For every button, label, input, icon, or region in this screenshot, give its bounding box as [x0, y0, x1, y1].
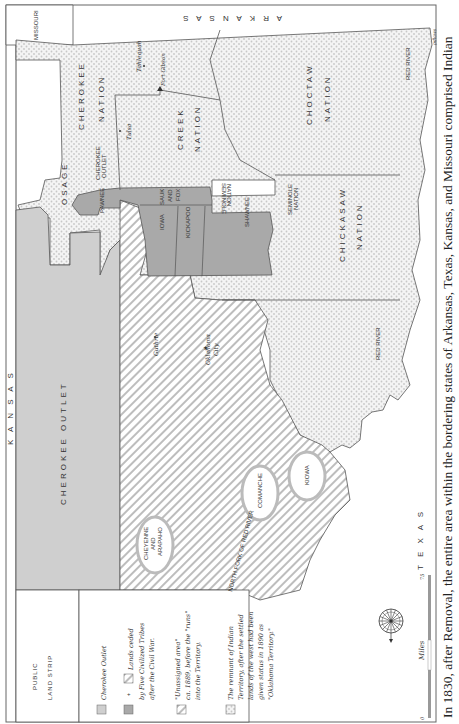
svg-text:given status in 1890 as: given status in 1890 as	[257, 623, 265, 700]
svg-text:CHEYENNE: CHEYENNE	[143, 527, 149, 560]
svg-text:PAWNEE: PAWNEE	[99, 188, 105, 213]
svg-text:Lands ceded: Lands ceded	[127, 628, 135, 671]
svg-text:CHOCTAW: CHOCTAW	[305, 64, 314, 125]
indian-territory-map: K A N S A S MISSOURI A R K A N S A S PUB…	[0, 0, 459, 724]
svg-text:Cherokee Outlet: Cherokee Outlet	[100, 645, 108, 700]
svg-text:CHICKASAW: CHICKASAW	[338, 187, 347, 262]
missouri-label: MISSOURI	[33, 10, 39, 40]
svg-text:ca. 1889, before the "runs": ca. 1889, before the "runs"	[184, 611, 192, 700]
svg-text:NATION: NATION	[293, 188, 299, 210]
svg-text:CREEK: CREEK	[176, 107, 185, 150]
kansas-label: K A N S A S	[6, 370, 15, 445]
svg-text:AND: AND	[167, 189, 173, 202]
svg-text:COMANCHE: COMANCHE	[257, 473, 263, 508]
svg-text:ARAPAHO: ARAPAHO	[157, 527, 163, 556]
svg-text:OUTLET: OUTLET	[101, 154, 107, 178]
svg-text:NATION: NATION	[355, 202, 364, 250]
svg-text:KIOWA: KIOWA	[304, 465, 310, 485]
svg-text:by Five Civilized Tribes: by Five Civilized Tribes	[138, 622, 146, 700]
svg-text:Miles: Miles	[418, 640, 426, 661]
svg-text:City: City	[212, 343, 220, 356]
red-river-label-2: RED RIVER	[375, 327, 381, 360]
svg-text:into the Territory.: into the Territory.	[194, 642, 202, 700]
legend-swatch-ceded-dark	[124, 705, 133, 714]
svg-text:Guthrie: Guthrie	[152, 332, 159, 356]
svg-text:"Oklahoma Territory.": "Oklahoma Territory."	[267, 628, 275, 700]
svg-text:FOX: FOX	[175, 189, 181, 201]
svg-text:75: 75	[419, 574, 425, 580]
svg-text:NATION: NATION	[97, 74, 106, 122]
pdlaws-label: pdlaws	[432, 28, 437, 45]
caption: In 1830, after Removal, the entire area …	[440, 36, 455, 718]
svg-text:OSAGE: OSAGE	[60, 162, 69, 205]
svg-text:CHEROKEE: CHEROKEE	[77, 61, 86, 130]
svg-text:"Unassigned area": "Unassigned area"	[174, 639, 182, 700]
svg-text:AND: AND	[150, 537, 156, 550]
legend-swatch-cherokee-outlet	[97, 705, 106, 714]
svg-text:KICKAPOO: KICKAPOO	[185, 206, 191, 238]
tahlequah-dot	[143, 65, 145, 67]
tulsa-dot	[119, 130, 121, 132]
red-river-label-1: RED RIVER	[405, 47, 411, 80]
svg-text:lands of the west had been: lands of the west had been	[247, 611, 255, 700]
svg-text:IOWA: IOWA	[159, 214, 165, 230]
legend-swatch-ceded-hatch	[124, 674, 133, 683]
legend-plus: +	[127, 691, 131, 697]
svg-text:PUBLIC: PUBLIC	[32, 662, 38, 690]
legend-swatch-remnant	[226, 705, 235, 714]
svg-text:Oklahoma: Oklahoma	[204, 334, 211, 365]
svg-text:LAND STRIP: LAND STRIP	[47, 655, 53, 700]
missouri-region	[6, 5, 73, 45]
svg-text:SHAWNEE: SHAWNEE	[244, 197, 250, 227]
svg-text:Territory, after the settled: Territory, after the settled	[237, 614, 245, 700]
svg-text:NATION: NATION	[226, 184, 232, 206]
arkansas-label: A R K A N S A S	[180, 14, 282, 23]
svg-text:NATION: NATION	[323, 74, 332, 122]
svg-text:Tahlequah: Tahlequah	[135, 40, 143, 72]
svg-text:The remnant of Indian: The remnant of Indian	[227, 626, 235, 700]
texas-label: T E X A S	[416, 509, 425, 570]
svg-text:CHEROKEE OUTLET: CHEROKEE OUTLET	[59, 381, 68, 505]
legend-swatch-unassigned	[177, 705, 186, 714]
svg-text:Fort Gibson: Fort Gibson	[160, 53, 166, 87]
svg-text:SAUK: SAUK	[159, 189, 165, 205]
svg-text:NATION: NATION	[193, 104, 202, 152]
svg-text:after the Civil War.: after the Civil War.	[148, 638, 156, 700]
svg-text:Tulsa: Tulsa	[125, 123, 132, 140]
